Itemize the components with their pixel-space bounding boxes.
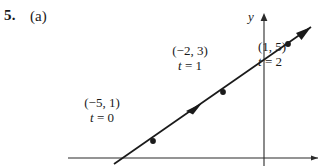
figure-page: 5. (a) y (−2, 3) t = 1 xyxy=(0,0,323,166)
point-label-t0: (−5, 1) t = 0 xyxy=(60,96,144,124)
parametric-line-graph xyxy=(0,0,323,166)
point-marker-t0 xyxy=(150,138,156,144)
point-label-t2: (1, 5) t = 2 xyxy=(258,40,318,68)
parameter-value-t0: = 0 xyxy=(94,110,114,125)
parameter-value-t1: = 1 xyxy=(182,58,202,73)
point-label-t1: (−2, 3) t = 1 xyxy=(148,44,232,72)
point-marker-t1 xyxy=(220,89,226,95)
point-parameter-t2: t = 2 xyxy=(258,55,318,69)
y-axis-label: y xyxy=(248,10,254,24)
point-coordinates-t2: (1, 5) xyxy=(258,40,318,54)
point-parameter-t1: t = 1 xyxy=(148,59,232,73)
y-axis xyxy=(261,13,268,166)
y-axis-arrowhead xyxy=(261,13,268,21)
point-parameter-t0: t = 0 xyxy=(60,111,144,125)
line-end-arrowhead xyxy=(296,27,311,40)
parameter-value-t2: = 2 xyxy=(262,54,282,69)
point-coordinates-t1: (−2, 3) xyxy=(148,44,232,58)
point-coordinates-t0: (−5, 1) xyxy=(60,96,144,110)
x-axis-arrowhead xyxy=(311,155,318,160)
x-axis xyxy=(68,155,318,160)
